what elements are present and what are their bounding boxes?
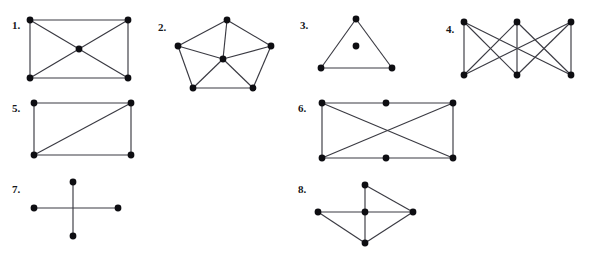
graph-edge xyxy=(223,59,253,88)
graph-vertex xyxy=(353,43,360,50)
graph-7-label: 7. xyxy=(12,184,20,195)
graph-7 xyxy=(30,178,122,240)
graph-2-canvas xyxy=(172,14,280,94)
graph-vertex xyxy=(31,152,38,159)
graph-edge xyxy=(30,49,79,78)
graph-2-label: 2. xyxy=(158,22,166,33)
graph-6-label: 6. xyxy=(298,103,306,114)
graph-edge xyxy=(223,46,271,59)
graph-edge xyxy=(356,19,392,68)
graph-vertex xyxy=(175,43,182,50)
graph-edge xyxy=(30,20,79,49)
graph-vertex xyxy=(319,155,326,162)
graph-vertex xyxy=(70,179,77,186)
graph-edge xyxy=(321,19,356,68)
graph-edge xyxy=(34,103,131,155)
graph-edge xyxy=(178,20,227,46)
graph-vertex xyxy=(514,19,521,26)
graph-vertex xyxy=(128,100,135,107)
graph-vertex xyxy=(128,152,135,159)
graph-edge xyxy=(223,20,227,59)
graph-vertex xyxy=(70,233,77,240)
graph-4-label: 4. xyxy=(446,24,454,35)
graph-vertex xyxy=(410,209,417,216)
graph-edge xyxy=(193,59,223,88)
graph-vertex xyxy=(450,100,457,107)
graph-vertex xyxy=(362,182,369,189)
graph-8-label: 8. xyxy=(298,184,306,195)
graph-6 xyxy=(316,98,460,163)
graph-7-canvas xyxy=(30,178,122,240)
graph-1 xyxy=(24,14,134,84)
graph-vertex xyxy=(568,72,575,79)
graph-vertex xyxy=(319,100,326,107)
graph-edge xyxy=(178,46,193,88)
graph-vertex xyxy=(27,75,34,82)
graph-vertex xyxy=(315,209,322,216)
graph-3-label: 3. xyxy=(300,20,308,31)
graph-3-canvas xyxy=(316,14,398,74)
graph-edge xyxy=(253,46,271,88)
graph-vertex xyxy=(115,205,122,212)
graph-2 xyxy=(172,14,280,94)
graph-edge xyxy=(79,49,128,78)
graph-vertex xyxy=(461,19,468,26)
graph-vertex xyxy=(514,72,521,79)
cutoff-header-text: · · · · · · · · · xyxy=(150,0,450,2)
graph-vertex xyxy=(362,209,369,216)
graph-edge xyxy=(178,46,223,59)
graph-1-label: 1. xyxy=(12,20,20,31)
graph-vertex xyxy=(31,100,38,107)
graph-edge xyxy=(365,212,413,243)
graph-edge xyxy=(318,212,365,243)
graph-4-canvas xyxy=(459,16,579,82)
graph-vertex xyxy=(353,16,360,23)
graph-vertex xyxy=(461,72,468,79)
graph-vertex xyxy=(224,17,231,24)
graph-vertex xyxy=(76,46,83,53)
graph-vertex xyxy=(31,205,38,212)
graph-5-label: 5. xyxy=(12,103,20,114)
graph-edge xyxy=(227,20,271,46)
graph-6-canvas xyxy=(316,98,460,163)
graph-vertex xyxy=(125,17,132,24)
graph-edge xyxy=(365,185,413,212)
graph-vertex xyxy=(568,19,575,26)
graph-5-canvas xyxy=(28,98,138,160)
graph-4 xyxy=(459,16,579,82)
graph-vertex xyxy=(190,85,197,92)
graph-vertex xyxy=(383,155,390,162)
graph-vertex xyxy=(220,56,227,63)
graph-vertex xyxy=(318,65,325,72)
graph-vertex xyxy=(268,43,275,50)
graph-5 xyxy=(28,98,138,160)
graph-vertex xyxy=(27,17,34,24)
graph-vertex xyxy=(389,65,396,72)
worksheet-page: · · · · · · · · · 1.2.3.4.5.6.7.8. xyxy=(0,0,589,267)
graph-3 xyxy=(316,14,398,74)
graph-vertex xyxy=(450,155,457,162)
graph-8-canvas xyxy=(314,180,418,248)
graph-vertex xyxy=(383,100,390,107)
graph-edge xyxy=(79,20,128,49)
graph-vertex xyxy=(362,240,369,247)
graph-8 xyxy=(314,180,418,248)
graph-vertex xyxy=(125,75,132,82)
graph-1-canvas xyxy=(24,14,134,84)
graph-vertex xyxy=(250,85,257,92)
